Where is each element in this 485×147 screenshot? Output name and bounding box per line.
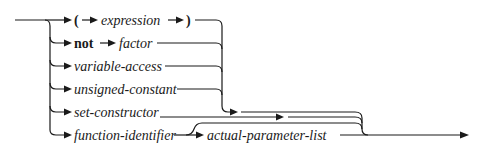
unsigned-constant-nonterminal: unsigned-constant <box>74 82 178 97</box>
factor-nonterminal: factor <box>119 36 153 51</box>
factor-syntax-diagram: ( expression ) not factor variable-acces… <box>0 0 485 147</box>
arrow-icon <box>230 109 238 116</box>
arrow-icon <box>196 132 204 139</box>
arrow-icon <box>64 40 72 47</box>
exit-arrow-icon <box>460 132 469 139</box>
arrow-icon <box>176 17 184 24</box>
variable-access-nonterminal: variable-access <box>74 59 162 74</box>
not-keyword: not <box>74 36 94 51</box>
branch-line-constant <box>50 83 64 89</box>
branch-line-set <box>50 106 64 112</box>
function-identifier-nonterminal: function-identifier <box>74 128 176 143</box>
actual-parameter-list-nonterminal: actual-parameter-list <box>207 128 328 143</box>
merge-line-variable <box>165 66 222 72</box>
arrow-icon <box>64 17 72 24</box>
arrow-icon <box>64 132 72 139</box>
merge-line-set-continue <box>288 117 362 123</box>
arrow-icon <box>64 86 72 93</box>
arrow-icon <box>108 40 116 47</box>
arrow-icon <box>64 63 72 70</box>
merge-line-not <box>157 43 222 49</box>
expression-nonterminal: expression <box>101 13 160 28</box>
open-paren-terminal: ( <box>74 13 79 29</box>
arrow-icon <box>90 17 98 24</box>
merge-line-constant <box>177 89 222 95</box>
entry-line <box>15 20 64 135</box>
branch-line-not <box>50 37 64 43</box>
branch-line-variable <box>50 60 64 66</box>
set-constructor-nonterminal: set-constructor <box>74 105 159 120</box>
close-paren-terminal: ) <box>186 13 191 29</box>
arrow-icon <box>276 114 284 121</box>
arrow-icon <box>64 109 72 116</box>
